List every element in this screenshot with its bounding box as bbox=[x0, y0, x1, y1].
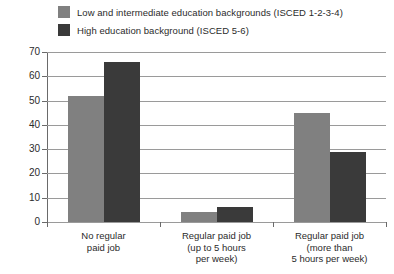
bar-chart: Low and intermediate education backgroun… bbox=[0, 0, 394, 274]
legend-swatch-low-intermediate bbox=[58, 6, 70, 18]
x-axis-category-label: Regular paid job(more than5 hours per we… bbox=[273, 230, 386, 265]
x-axis-category-label: No regularpaid job bbox=[47, 230, 160, 253]
legend-label: High education background (ISCED 5-6) bbox=[77, 25, 249, 36]
y-axis-tick-label: 10 bbox=[2, 193, 40, 203]
bar bbox=[330, 152, 366, 222]
bar bbox=[181, 212, 217, 222]
bar bbox=[294, 113, 330, 222]
x-axis-tick bbox=[386, 222, 387, 227]
bar bbox=[68, 96, 104, 222]
bar bbox=[217, 207, 253, 222]
y-axis-tick-label: 60 bbox=[2, 71, 40, 81]
y-axis-tick-label: 20 bbox=[2, 168, 40, 178]
y-axis-tick-label: 0 bbox=[2, 217, 40, 227]
category-label-line: (more than bbox=[273, 242, 386, 254]
y-axis-tick-label: 30 bbox=[2, 144, 40, 154]
legend-item: Low and intermediate education backgroun… bbox=[58, 3, 388, 21]
category-label-line: per week) bbox=[160, 253, 273, 265]
gridline bbox=[47, 222, 386, 223]
legend-item: High education background (ISCED 5-6) bbox=[58, 21, 388, 39]
y-axis-labels: 706050403020100 bbox=[0, 0, 40, 274]
category-label-line: (up to 5 hours bbox=[160, 242, 273, 254]
x-axis-tick bbox=[273, 222, 274, 227]
category-label-line: Regular paid job bbox=[160, 230, 273, 242]
bar bbox=[104, 62, 140, 222]
bars-layer bbox=[47, 52, 386, 222]
category-label-line: 5 hours per week) bbox=[273, 253, 386, 265]
category-label-line: paid job bbox=[47, 242, 160, 254]
x-axis-category-label: Regular paid job(up to 5 hoursper week) bbox=[160, 230, 273, 265]
y-axis-tick-label: 50 bbox=[2, 96, 40, 106]
x-axis-tick bbox=[47, 222, 48, 227]
category-label-line: Regular paid job bbox=[273, 230, 386, 242]
chart-legend: Low and intermediate education backgroun… bbox=[58, 3, 388, 39]
legend-swatch-high bbox=[58, 24, 70, 36]
legend-label: Low and intermediate education backgroun… bbox=[77, 7, 343, 18]
category-label-line: No regular bbox=[47, 230, 160, 242]
y-axis-tick-label: 70 bbox=[2, 47, 40, 57]
x-axis-tick bbox=[160, 222, 161, 227]
y-axis-tick-label: 40 bbox=[2, 120, 40, 130]
